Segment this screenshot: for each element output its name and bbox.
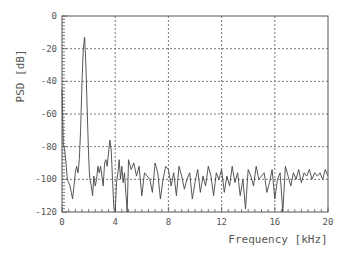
y-tick-label: -60	[41, 109, 57, 119]
x-tick-label: 0	[59, 217, 64, 227]
y-tick-label: -40	[41, 76, 57, 86]
x-tick-label: 20	[323, 217, 334, 227]
y-tick-label: -100	[35, 174, 57, 184]
y-axis-label: PSD [dB]	[14, 50, 27, 103]
psd-line	[62, 37, 328, 212]
y-axis-tick-labels: 0-20-40-60-80-100-120	[35, 11, 57, 217]
chart-svg: 048121620 0-20-40-60-80-100-120 Frequenc…	[0, 0, 349, 256]
psd-chart: 048121620 0-20-40-60-80-100-120 Frequenc…	[0, 0, 349, 256]
y-tick-label: -120	[35, 207, 57, 217]
x-tick-label: 16	[269, 217, 280, 227]
x-tick-label: 8	[166, 217, 171, 227]
x-tick-label: 4	[112, 217, 117, 227]
x-tick-label: 12	[216, 217, 227, 227]
y-tick-label: 0	[52, 11, 57, 21]
data-series	[62, 37, 328, 212]
y-tick-label: -80	[41, 142, 57, 152]
x-axis-label: Frequency [kHz]	[228, 233, 327, 246]
y-tick-label: -20	[41, 44, 57, 54]
x-axis-tick-labels: 048121620	[59, 217, 333, 227]
